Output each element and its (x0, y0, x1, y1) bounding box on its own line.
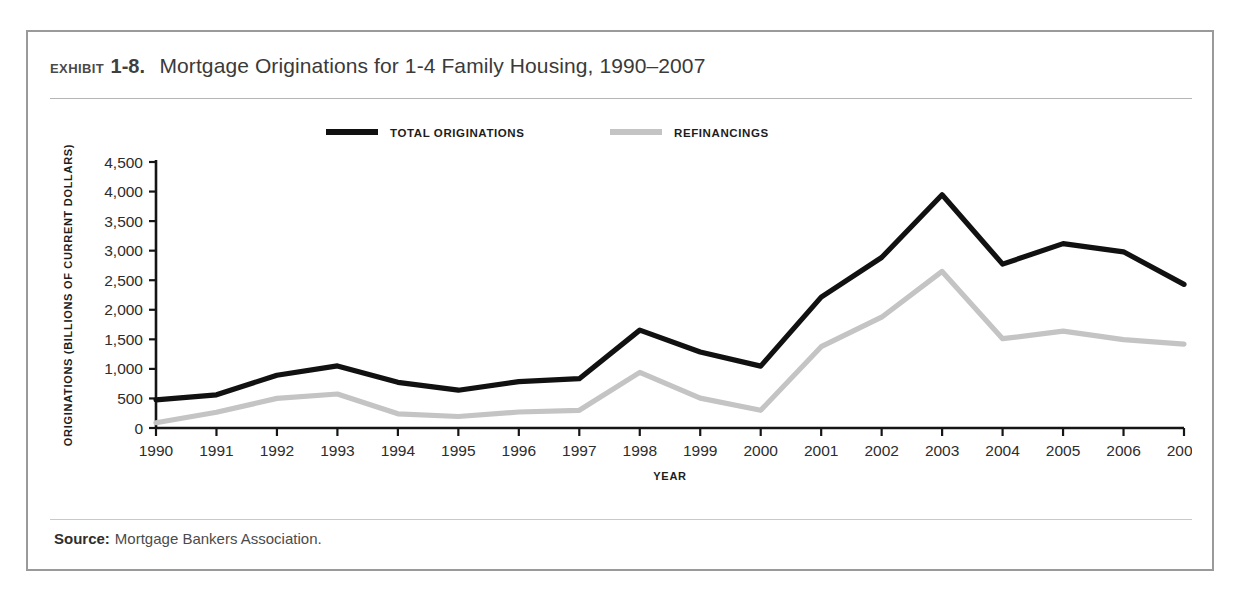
y-axis-tick-label: 3,000 (104, 242, 143, 259)
y-axis-tick-label: 2,500 (104, 272, 143, 289)
x-axis-tick-label: 2001 (804, 442, 838, 459)
x-axis-tick-label: 2000 (743, 442, 778, 459)
y-axis-title: ORIGINATIONS (BILLIONS OF CURRENT DOLLAR… (62, 144, 74, 446)
line-chart: 05001,0001,5002,0002,5003,0003,5004,0004… (50, 110, 1192, 490)
x-axis-tick-label: 1998 (623, 442, 657, 459)
x-axis-tick-label: 2005 (1046, 442, 1080, 459)
title-divider (50, 98, 1192, 99)
x-axis-tick-label: 1991 (199, 442, 233, 459)
x-axis-tick-label: 1993 (320, 442, 354, 459)
x-axis-title: YEAR (653, 470, 686, 482)
source-note: Source:Mortgage Bankers Association. (54, 530, 322, 547)
x-axis-tick-label: 1994 (381, 442, 416, 459)
x-axis-tick-label: 1995 (441, 442, 475, 459)
y-axis-tick-label: 4,500 (104, 154, 143, 171)
x-axis-tick-label: 2003 (925, 442, 959, 459)
exhibit-number: 1-8. (111, 55, 145, 77)
x-axis-tick-label: 1996 (502, 442, 536, 459)
y-axis-tick-label: 2,000 (104, 301, 143, 318)
y-axis-tick-label: 500 (117, 390, 143, 407)
x-axis-tick-label: 1990 (139, 442, 174, 459)
y-axis-tick-label: 3,500 (104, 213, 143, 230)
x-axis-tick-label: 2007 (1167, 442, 1192, 459)
exhibit-title-text: Mortgage Originations for 1-4 Family Hou… (159, 54, 705, 77)
y-axis-tick-label: 4,000 (104, 183, 143, 200)
source-divider (50, 519, 1192, 520)
legend-label-refinancings: REFINANCINGS (674, 127, 769, 139)
x-axis-tick-label: 1992 (260, 442, 294, 459)
x-axis-tick-label: 1997 (562, 442, 596, 459)
series-line-total-originations (156, 195, 1184, 400)
series-line-refinancings (156, 271, 1184, 422)
source-text: Mortgage Bankers Association. (115, 530, 322, 547)
exhibit-title-block: Exhibit 1-8. Mortgage Originations for 1… (50, 54, 1180, 98)
page-root: Exhibit 1-8. Mortgage Originations for 1… (0, 0, 1242, 596)
y-axis-tick-label: 0 (134, 420, 143, 437)
x-axis-tick-label: 2004 (985, 442, 1020, 459)
exhibit-frame: Exhibit 1-8. Mortgage Originations for 1… (26, 30, 1214, 571)
exhibit-label: Exhibit (50, 56, 104, 77)
y-axis-tick-label: 1,000 (104, 360, 143, 377)
x-axis-tick-label: 2002 (864, 442, 898, 459)
x-axis-tick-label: 2006 (1106, 442, 1140, 459)
chart-plot-area: 05001,0001,5002,0002,5003,0003,5004,0004… (50, 110, 1192, 490)
y-axis-tick-label: 1,500 (104, 331, 143, 348)
legend-label-total-originations: TOTAL ORIGINATIONS (390, 127, 525, 139)
x-axis-tick-label: 1999 (683, 442, 717, 459)
source-label: Source: (54, 530, 110, 547)
